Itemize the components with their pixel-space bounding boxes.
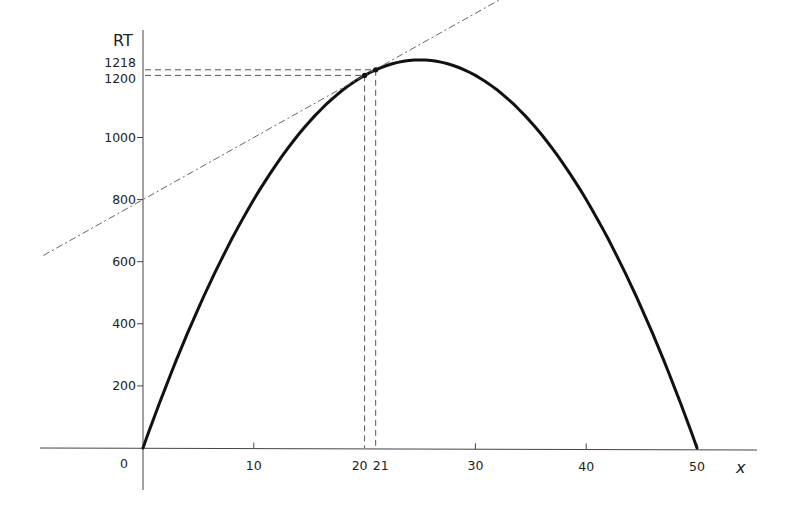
x-axis-title: x <box>735 458 746 477</box>
marked-point <box>362 73 367 78</box>
tick-labels: RTx0102021304050200400600800100012001218 <box>104 31 746 477</box>
y-tick-label: 1218 <box>104 55 136 70</box>
revenue-chart: RTx0102021304050200400600800100012001218 <box>0 0 797 510</box>
x-tick-label: 20 <box>352 458 368 473</box>
x-tick-label: 21 <box>373 458 389 473</box>
x-tick-label: 10 <box>246 458 262 473</box>
y-tick-label: 200 <box>112 378 136 393</box>
y-axis-title: RT <box>113 31 133 50</box>
x-tick-label: 50 <box>689 459 705 474</box>
dashed-guides <box>145 70 376 448</box>
x-tick-label: 40 <box>578 459 594 474</box>
x-axis-line <box>40 448 757 450</box>
series-layer <box>43 0 697 448</box>
marked-point <box>373 67 378 72</box>
y-tick-label: 1200 <box>104 71 136 86</box>
origin-label: 0 <box>120 456 128 471</box>
y-tick-label: 600 <box>112 254 136 269</box>
y-tick-label: 400 <box>112 316 136 331</box>
axes <box>40 30 757 490</box>
x-tick-label: 30 <box>467 458 483 473</box>
y-tick-label: 1000 <box>104 130 136 145</box>
y-tick-label: 800 <box>112 192 136 207</box>
revenue-curve <box>143 60 697 448</box>
